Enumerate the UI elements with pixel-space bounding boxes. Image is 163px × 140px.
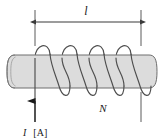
current-symbol: I: [22, 127, 27, 138]
current-unit: [A]: [33, 127, 47, 138]
turns-label: N: [98, 102, 107, 114]
solenoid-drawing: l: [0, 0, 163, 140]
solenoid-figure: l: [0, 0, 163, 140]
current-label: I [A]: [22, 122, 47, 139]
length-label: l: [84, 4, 88, 18]
